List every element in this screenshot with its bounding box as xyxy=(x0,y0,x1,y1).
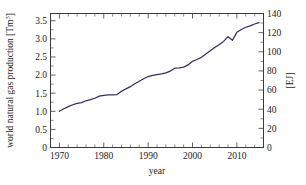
y-tick-label-right: 100 xyxy=(267,47,282,57)
x-tick-label: 2010 xyxy=(227,151,246,161)
y-tick-label-right: 120 xyxy=(267,28,282,38)
y-tick-label-left: 1.5 xyxy=(35,89,47,99)
y-tick-label-right: 80 xyxy=(267,66,277,76)
y-tick-label-right: 60 xyxy=(267,85,277,95)
chart-figure: 1970198019902000201000.51.01.52.02.53.03… xyxy=(0,0,306,185)
y-tick-label-right: 140 xyxy=(267,9,282,19)
line-chart: 1970198019902000201000.51.01.52.02.53.03… xyxy=(0,0,306,185)
plot-frame xyxy=(51,14,264,148)
y-axis-title-left: world natural gas production [Tm3] xyxy=(4,13,16,148)
x-axis-title: year xyxy=(149,166,166,176)
y-tick-label-left: 3.0 xyxy=(35,34,47,44)
y-tick-label-left: 0 xyxy=(42,143,47,153)
y-tick-label-left: 3.5 xyxy=(35,16,47,26)
x-tick-label: 1990 xyxy=(139,151,158,161)
y-tick-label-left: 2.0 xyxy=(35,70,47,80)
y-tick-label-left: 2.5 xyxy=(35,52,47,62)
x-tick-label: 1980 xyxy=(94,151,113,161)
y-tick-label-right: 40 xyxy=(267,105,277,115)
y-tick-label-right: 0 xyxy=(267,143,272,153)
y-tick-label-left: 0.5 xyxy=(35,125,47,135)
data-series-line xyxy=(59,23,259,112)
x-tick-label: 2000 xyxy=(183,151,202,161)
x-tick-label: 1970 xyxy=(50,151,69,161)
y-tick-label-right: 20 xyxy=(267,124,277,134)
y-axis-title-right: [EJ] xyxy=(285,73,295,89)
y-tick-label-left: 1.0 xyxy=(35,107,47,117)
